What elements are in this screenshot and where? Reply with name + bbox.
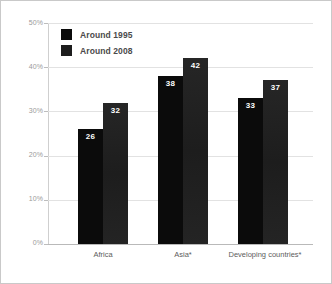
legend-item-around-2008: Around 2008 xyxy=(61,45,133,56)
bar-value-developing-1995: 33 xyxy=(238,101,263,110)
bar-group-asia: 38 42 xyxy=(158,23,208,244)
y-axis-label-40: 40% xyxy=(15,63,43,71)
legend-swatch-icon-1995 xyxy=(61,29,72,40)
x-axis-label-africa: Africa xyxy=(63,250,143,260)
x-axis-label-developing-countries: Developing countries* xyxy=(223,250,307,260)
bar-asia-1995: 38 xyxy=(158,76,183,244)
gridline-0 xyxy=(48,244,313,245)
legend-swatch-icon-2008 xyxy=(61,45,72,56)
bar-developing-2008: 37 xyxy=(263,80,288,244)
x-axis-label-asia: Asia* xyxy=(143,250,223,260)
chart-figure: 50% 40% 30% 20% 10% 0% 26 32 xyxy=(0,0,332,284)
bar-value-asia-2008: 42 xyxy=(183,61,208,70)
y-axis-labels: 50% 40% 30% 20% 10% 0% xyxy=(9,1,43,284)
bar-africa-2008: 32 xyxy=(103,103,128,244)
bar-group-developing-countries: 33 37 xyxy=(238,23,288,244)
bar-africa-1995: 26 xyxy=(78,129,103,244)
legend-label-1995: Around 1995 xyxy=(80,30,133,40)
bar-value-africa-2008: 32 xyxy=(103,106,128,115)
bar-value-developing-2008: 37 xyxy=(263,83,288,92)
y-axis-label-30: 30% xyxy=(15,107,43,115)
chart-legend: Around 1995 Around 2008 xyxy=(61,29,133,61)
bar-value-africa-1995: 26 xyxy=(78,132,103,141)
y-axis-label-20: 20% xyxy=(15,151,43,159)
y-axis-label-0: 0% xyxy=(15,239,43,247)
bar-asia-2008: 42 xyxy=(183,58,208,244)
bar-developing-1995: 33 xyxy=(238,98,263,244)
y-axis-label-10: 10% xyxy=(15,195,43,203)
bar-value-asia-1995: 38 xyxy=(158,79,183,88)
legend-label-2008: Around 2008 xyxy=(80,46,133,56)
y-axis-label-50: 50% xyxy=(15,19,43,27)
legend-item-around-1995: Around 1995 xyxy=(61,29,133,40)
